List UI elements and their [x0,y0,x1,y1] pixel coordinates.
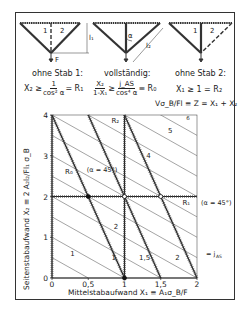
y-tick-label: 3 [43,152,48,161]
r0-num2: j_AS [118,80,135,89]
z-label-4: 4 [146,152,151,160]
y-tick-label: 0 [43,274,48,283]
condition-r1: X₂ ≥ 1cos² α = R₁ [24,80,83,97]
r0-ge: ≥ [108,84,115,93]
r1-fraction: 1cos² α [43,80,64,97]
r0-rhs: ≡ R₀ [138,84,156,93]
z-label-6: 6 [186,115,190,121]
bar-label-1-right: 1 [193,27,197,35]
condition-r2: X₁ ≥ 1 = R₂ [176,85,222,94]
dimension-l1: l₁ [89,34,94,42]
load-label: F [55,56,59,64]
z-isoline [52,95,248,278]
diagram-canvas: 00,511,52012341121,52456R₀(α = 45°)R₂R₁(… [0,0,248,313]
z-label-5: 5 [168,127,172,135]
bar-label-2: 2 [60,27,64,35]
marker-point [123,195,127,199]
x-tick-label: 0 [50,280,55,289]
jas-label-2: 2 [175,254,179,262]
marker-point [123,276,127,280]
label-r0: R₀ [65,168,73,176]
z-isoline [52,217,161,278]
z-definition: Vσ_B/Fl ≡ Z = X₁ + X₂ [155,99,237,108]
condition-r0: X₂1-X₁ ≥ j_AScos⁴ α ≡ R₀ [93,80,156,97]
caption-complete: vollständig: [104,69,150,78]
jas-label-1: 1 [111,254,115,262]
r1-den: cos² α [43,89,64,97]
caption-without-bar-1: ohne Stab 1: [32,69,83,78]
r0-den2: cos⁴ α [116,89,137,97]
label-jas-sub: AS [216,254,222,259]
r0-den1: 1-X₁ [93,89,107,97]
z-label-2: 2 [114,223,118,231]
r0-num1: X₂ [95,80,105,89]
r1-rhs: = R₁ [65,84,83,93]
r0-fraction-1: X₂1-X₁ [93,80,107,97]
x-tick-label: 2 [195,280,200,289]
marker-point [159,195,163,199]
jas-label-15: 1,5 [139,254,150,262]
marker-point [86,195,90,199]
label-alpha-45-r1: (α = 45°) [201,199,231,207]
y-tick-label: 2 [43,193,48,202]
y-tick-label: 4 [43,111,48,120]
caption-without-bar-2: ohne Stab 2: [175,69,226,78]
x-axis-label: Mittelstabaufwand X₁ ≡ A₁σ_B/F [68,288,188,297]
y-tick-label: 1 [43,233,48,242]
label-r2: R₂ [111,117,119,125]
dimension-l2: l₂ [146,42,151,50]
angle-label: α [128,32,133,40]
z-isoline [52,176,233,278]
r1-lhs: X₂ ≥ [24,84,42,93]
truss-middle [93,23,163,62]
label-r1: R₁ [183,199,191,207]
label-alpha-45-r0: (α = 45°) [87,166,117,174]
z-label-1: 1 [70,250,74,258]
truss-right [169,23,232,62]
bar-label-1: 1 [43,27,47,35]
bar-label-2-right: 2 [210,27,214,35]
label-jas: = j [206,250,216,258]
z-isoline [52,258,88,278]
r0-fraction-2: j_AScos⁴ α [116,80,137,97]
r1-num: 1 [50,80,56,89]
y-axis-label: Seitenstabaufwand X₂ ≡ 2 A₂l₂/Fl₁ σ_B [22,148,31,290]
